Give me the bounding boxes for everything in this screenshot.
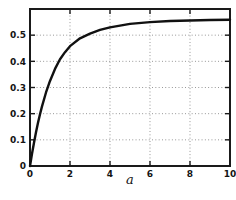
data-curve	[30, 20, 230, 166]
y-tick-label: 0.2	[10, 109, 26, 119]
y-tick-label: 0.5	[10, 30, 26, 40]
y-tick-label: 0.4	[10, 57, 26, 67]
figure: 024681000.10.20.30.40.5 a	[0, 0, 236, 200]
y-tick-label: 0.1	[10, 135, 26, 145]
x-axis-label: a	[30, 173, 230, 186]
y-tick-label: 0	[20, 161, 26, 171]
y-tick-label: 0.3	[10, 83, 26, 93]
plot-canvas: 024681000.10.20.30.40.5	[0, 0, 236, 200]
